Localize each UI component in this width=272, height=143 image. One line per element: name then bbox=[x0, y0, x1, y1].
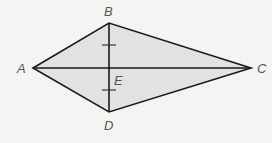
label-C: C bbox=[257, 61, 267, 76]
label-B: B bbox=[104, 4, 113, 19]
label-A: A bbox=[16, 61, 26, 76]
kite-diagram: A B C D E bbox=[0, 0, 272, 143]
label-D: D bbox=[104, 118, 113, 133]
label-E: E bbox=[114, 73, 123, 88]
